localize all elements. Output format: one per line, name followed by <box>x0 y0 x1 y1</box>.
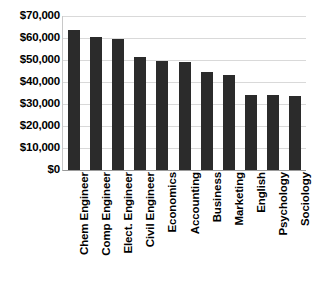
x-tick-label: Accounting <box>189 172 201 234</box>
bar <box>201 72 213 170</box>
bar <box>267 95 279 170</box>
x-tick-label: Sociology <box>299 172 311 226</box>
x-tick-label: Business <box>211 172 223 222</box>
y-tick-label: $20,000 <box>0 120 60 132</box>
x-tick-label: Marketing <box>233 172 245 225</box>
bar <box>156 61 168 170</box>
y-tick-label: $50,000 <box>0 54 60 66</box>
y-tick-label: $70,000 <box>0 10 60 22</box>
plot-area <box>62 16 306 171</box>
y-tick-label: $10,000 <box>0 142 60 154</box>
x-tick-label: Civil Engineer <box>144 172 156 247</box>
bar-chart: $0$10,000$20,000$30,000$40,000$50,000$60… <box>0 0 315 293</box>
bar <box>134 57 146 170</box>
x-axis: Chem EngineerComp EngineerElect. Enginee… <box>62 172 305 293</box>
bar <box>223 75 235 170</box>
bar <box>90 37 102 170</box>
y-tick-label: $0 <box>0 164 60 176</box>
x-tick-label: Chem Engineer <box>78 172 90 255</box>
x-tick-label: Economics <box>166 172 178 232</box>
bars-layer <box>63 16 306 170</box>
bar <box>179 62 191 170</box>
y-tick-label: $60,000 <box>0 32 60 44</box>
y-tick-label: $40,000 <box>0 76 60 88</box>
x-tick-label: Psychology <box>277 172 289 236</box>
x-tick-label: Comp Engineer <box>100 172 112 256</box>
bar <box>245 95 257 170</box>
bar <box>289 96 301 170</box>
x-tick-label: Elect. Engineer <box>122 172 134 254</box>
bar <box>112 39 124 170</box>
y-axis: $0$10,000$20,000$30,000$40,000$50,000$60… <box>0 0 60 293</box>
bar <box>68 30 80 170</box>
x-tick-label: English <box>255 172 267 213</box>
y-tick-label: $30,000 <box>0 98 60 110</box>
